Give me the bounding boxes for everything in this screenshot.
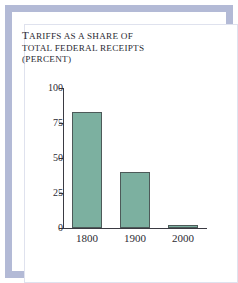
x-axis-line	[63, 228, 207, 229]
y-tick-label-75: 75	[37, 118, 63, 128]
x-tick-label-2000: 2000	[157, 232, 209, 245]
bar-2000	[168, 225, 198, 228]
figure-frame: TARIFFS AS A SHARE OF TOTAL FEDERAL RECE…	[0, 0, 238, 283]
y-tick-label-group-50: 50	[27, 153, 63, 163]
bar-1900	[120, 172, 150, 228]
bar-1800	[72, 112, 102, 228]
y-tick-label-group-0: 0	[27, 223, 63, 233]
y-tick-label-0: 0	[37, 223, 63, 233]
x-tick-label-1900: 1900	[109, 232, 161, 245]
plot-area: 0255075100 180019002000	[0, 0, 238, 283]
y-tick-label-group-25: 25	[27, 188, 63, 198]
y-tick-label-100: 100	[37, 83, 63, 93]
x-tick-label-1800: 1800	[61, 232, 113, 245]
y-tick-label-50: 50	[37, 153, 63, 163]
y-tick-label-group-75: 75	[27, 118, 63, 128]
y-tick-label-25: 25	[37, 188, 63, 198]
y-axis-line	[63, 88, 64, 229]
y-tick-label-group-100: 100	[27, 83, 63, 93]
